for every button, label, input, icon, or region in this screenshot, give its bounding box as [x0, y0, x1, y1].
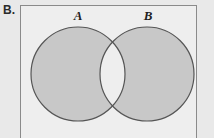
set-label-a: A — [70, 9, 86, 22]
venn-circles — [0, 0, 214, 138]
venn-diagram-figure: B. A B — [0, 0, 214, 138]
set-label-b: B — [140, 9, 156, 22]
panel-letter-label: B. — [3, 3, 15, 17]
